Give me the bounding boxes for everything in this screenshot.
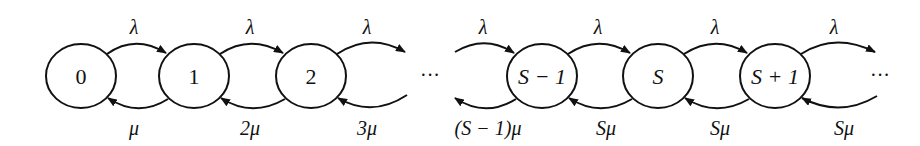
ellipsis-middle: ···: [420, 64, 440, 86]
service-rate-label: (S − 1)μ: [455, 117, 522, 140]
arrow-forward: [455, 43, 514, 53]
arrow-backward: [685, 98, 749, 108]
arrow-forward: [568, 44, 630, 54]
arrow-forward: [684, 44, 747, 54]
state-label: S: [653, 64, 664, 89]
arrow-backward: [221, 98, 285, 108]
state-label: 0: [76, 64, 87, 89]
state-diagram: 0 1 2 S − 1 S S + 1 ··· ··· λ λ λ λ λ λ …: [0, 0, 920, 146]
arrow-forward: [107, 44, 166, 54]
arrow-forward: [337, 42, 405, 54]
service-rate-label: Sμ: [710, 117, 730, 140]
arrow-backward: [108, 98, 168, 108]
arrival-rate-label: λ: [129, 16, 139, 38]
arrival-rate-label: λ: [245, 16, 255, 38]
arrival-rate-label: λ: [710, 16, 720, 38]
state-label: S + 1: [751, 64, 799, 89]
ellipsis-end: ···: [870, 64, 890, 86]
arrow-forward: [220, 44, 283, 54]
service-rate-label: Sμ: [596, 117, 616, 140]
service-rate-label: μ: [128, 117, 139, 140]
arrival-rate-label: λ: [593, 16, 603, 38]
arrow-backward: [338, 95, 407, 107]
state-label: S − 1: [518, 64, 566, 89]
arrival-rate-label: λ: [829, 16, 839, 38]
arrow-backward: [455, 98, 516, 108]
arrow-backward: [802, 96, 877, 108]
state-label: 2: [306, 64, 317, 89]
arrow-backward: [569, 98, 632, 108]
arrival-rate-label: λ: [362, 16, 372, 38]
service-rate-label: 3μ: [356, 117, 377, 140]
state-label: 1: [189, 64, 200, 89]
service-rate-label: Sμ: [834, 117, 854, 140]
service-rate-label: 2μ: [240, 117, 260, 140]
arrival-rate-label: λ: [478, 16, 488, 38]
arrow-forward: [801, 42, 875, 54]
